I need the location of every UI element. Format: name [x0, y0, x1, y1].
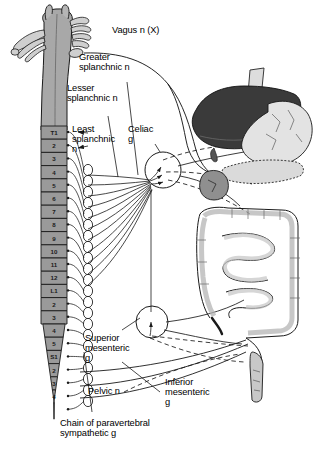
splanchnic-nerves: [88, 175, 152, 285]
celiac-ganglion: [145, 144, 181, 188]
gallbladder-shape: [211, 148, 218, 162]
spinal-segment-label: 4: [52, 393, 56, 400]
ramus-communicans: [68, 379, 84, 383]
cord-root-dot: [67, 223, 69, 225]
spinal-segment-label: 3: [52, 314, 56, 321]
rectum-shape: [250, 352, 263, 402]
colon-shape: [200, 207, 298, 338]
ramus-communicans: [68, 368, 84, 370]
cord-root-dot: [67, 276, 69, 278]
cord-root-dot: [67, 395, 69, 397]
spinal-segment-label: 7: [52, 208, 56, 215]
ramus-communicans: [68, 211, 84, 236]
chain-ganglion: [83, 274, 92, 285]
chain-ganglion: [83, 252, 92, 263]
cord-root-dot: [67, 210, 69, 212]
spinal-segment-label: 6: [52, 195, 56, 202]
spinal-segment-label: 2: [52, 142, 56, 149]
superior-mesenteric-ganglion: [136, 190, 168, 338]
spinal-segment-label: 4: [52, 169, 56, 176]
cord-root-dot: [67, 408, 69, 410]
ramus-communicans: [68, 277, 84, 291]
cord-root-dot: [67, 170, 69, 172]
spinal-segment-label: S1: [50, 353, 58, 360]
diagram-canvas: T123456789101112L12345S1234: [0, 0, 319, 450]
chain-ganglion: [83, 296, 92, 307]
cord-root-dot: [67, 184, 69, 186]
spinal-segment-label: 11: [51, 261, 58, 268]
cord-root-dot: [67, 131, 69, 133]
label-pelvic-nerve: Pelvic n: [88, 386, 120, 396]
cord-root-dot: [67, 302, 69, 304]
cord-root-dot: [67, 250, 69, 252]
spinal-segment-label: 4: [52, 327, 56, 334]
ramus-communicans: [68, 330, 84, 335]
spinal-segment-label: 12: [51, 274, 58, 281]
label-greater-splanchnic-nerve: Greater splanchnic n: [79, 52, 129, 72]
spinal-segment-label: 10: [51, 248, 58, 255]
duodenum-shape: [200, 170, 229, 200]
cord-root-dot: [67, 355, 69, 357]
ramus-communicans: [68, 390, 84, 396]
ramus-communicans: [68, 290, 84, 302]
cord-root-dot: [67, 316, 69, 318]
paravertebral-chain: [83, 164, 92, 406]
label-lesser-splanchnic-nerve: Lesser splanchnic n: [67, 83, 117, 103]
label-superior-mesenteric-ganglion: Superior mesenteric g: [85, 333, 129, 364]
spinal-segment-label: 3: [52, 155, 56, 162]
cord-root-dot: [67, 329, 69, 331]
ramus-communicans: [68, 356, 84, 357]
spinal-segment-blocks: T123456789101112L12345S1234: [41, 126, 67, 419]
spinal-segment-label: 3: [52, 380, 56, 387]
rami-communicantes: [67, 131, 84, 411]
chain-ganglion: [83, 285, 92, 296]
label-vagus-nerve: Vagus n (X): [112, 25, 159, 35]
ramus-communicans: [68, 343, 84, 346]
chain-ganglion: [83, 241, 92, 252]
conus-medullaris: [54, 403, 55, 419]
cord-root-dot: [67, 263, 69, 265]
cranial-rootlets-left: [11, 30, 46, 62]
spinal-segment-label: 5: [52, 340, 56, 347]
colon-lumen-fill-left: [202, 218, 214, 316]
cord-root-dot: [67, 382, 69, 384]
label-paravertebral-chain: Chain of paravertebral sympathetic g: [60, 418, 150, 438]
cord-root-dot: [67, 289, 69, 291]
chain-ganglion: [83, 307, 92, 318]
spinal-segment-label: 9: [52, 235, 56, 242]
spinal-segment-label: 2: [52, 301, 56, 308]
label-least-splanchnic-nerve: Least splanchnic n: [72, 124, 115, 155]
ramus-communicans: [68, 317, 84, 324]
colon-haustra: [196, 208, 300, 298]
anatomy-figure: T123456789101112L12345S1234: [0, 0, 319, 450]
spinal-segment-label: T1: [50, 129, 58, 136]
chain-ganglion: [83, 164, 92, 175]
small-intestine-fill: [224, 235, 273, 307]
cord-root-dot: [67, 144, 69, 146]
colon-lumen-fill: [204, 212, 292, 333]
spinal-segment-label: 2: [52, 367, 56, 374]
ramus-communicans: [68, 185, 84, 214]
label-inferior-mesenteric-ganglion: Inferior mesenteric g: [165, 377, 209, 408]
chain-ganglion: [83, 318, 92, 329]
spinal-segment-label: 8: [52, 221, 56, 228]
cord-root-dot: [67, 197, 69, 199]
cord-root-dot: [67, 342, 69, 344]
ramus-communicans: [68, 401, 84, 409]
ramus-communicans: [68, 304, 84, 313]
cord-root-dot: [67, 236, 69, 238]
ramus-communicans: [68, 158, 84, 192]
spinal-segment-label: 5: [52, 182, 56, 189]
chain-ganglion: [83, 263, 92, 274]
label-celiac-ganglion: Celiac g: [128, 124, 153, 144]
cord-root-dot: [67, 368, 69, 370]
cord-root-dot: [67, 157, 69, 159]
spinal-segment-label: L1: [50, 287, 58, 294]
spinal-cord-and-brainstem: [41, 5, 72, 130]
pancreas-shape: [222, 160, 304, 183]
appendix-shape: [212, 318, 222, 334]
ramus-communicans: [68, 251, 84, 269]
